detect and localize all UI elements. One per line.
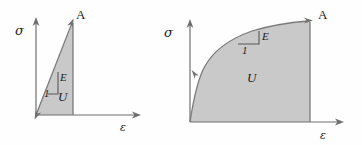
figure-canvas — [0, 0, 362, 145]
left-point-a-label: A — [76, 8, 85, 21]
right-x-axis-label: ε — [320, 130, 326, 141]
right-modulus-label: E — [262, 31, 269, 42]
right-y-axis-label: σ — [164, 26, 173, 39]
right-point-a-label: A — [318, 8, 327, 21]
right-area-label: U — [247, 71, 256, 84]
left-y-axis-label: σ — [15, 24, 24, 37]
left-unit-label: 1 — [44, 88, 50, 99]
right-curve-arrowhead-bottom — [192, 70, 199, 79]
left-panel-graphics — [33, 17, 141, 120]
stress-strain-figure: σ ε A E 1 U σ ε A E 1 U — [0, 0, 362, 145]
left-area-label: U — [58, 90, 67, 103]
right-unit-label: 1 — [242, 45, 248, 56]
left-x-axis-label: ε — [120, 122, 126, 133]
left-modulus-label: E — [60, 72, 67, 83]
